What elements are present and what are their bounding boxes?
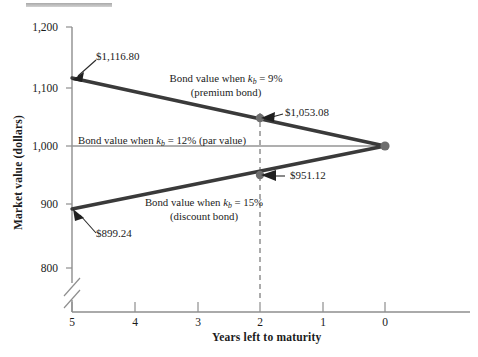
y-tick-label-1200: 1,200	[12, 21, 58, 34]
y-axis-title: Market value (dollars)	[12, 115, 25, 230]
annotation-1116-80: $1,116.80	[96, 50, 140, 62]
annotation-899-24: $899.24	[96, 227, 132, 239]
annotation-951-12: $951.12	[290, 169, 326, 181]
x-tick-label-1: 1	[313, 316, 333, 329]
x-tick-label-5: 5	[62, 316, 82, 329]
series-label-discount-line2: (discount bond)	[119, 210, 289, 222]
series-label-discount-prefix: Bond value when	[145, 196, 223, 208]
x-tick-label-3: 3	[188, 316, 208, 329]
bond-value-chart-figure: 1,200 1,100 1,000 900 800 5 4 3 2 1 0 Ye…	[0, 0, 478, 357]
arrow-head-899	[73, 209, 84, 221]
x-tick-label-4: 4	[125, 316, 145, 329]
series-label-premium-prefix: Bond value when	[170, 72, 248, 84]
x-tick-label-0: 0	[375, 316, 395, 329]
marker-maturity	[380, 141, 389, 150]
series-label-premium-suffix: = 9%	[257, 72, 283, 84]
y-tick-label-1100: 1,100	[12, 82, 58, 95]
y-tick-label-800: 800	[12, 262, 58, 275]
chart-plot-area	[0, 0, 478, 357]
series-label-premium-line2: (premium bond)	[160, 86, 292, 98]
series-label-par: Bond value when kb = 12% (par value)	[78, 134, 268, 148]
x-axis-title: Years left to maturity	[212, 331, 321, 344]
arrow-line-1116	[78, 60, 96, 76]
series-label-discount-suffix: = 15%	[232, 196, 263, 208]
series-label-discount: Bond value when kb = 15% (discount bond)	[119, 196, 289, 222]
series-label-par-prefix: Bond value when	[78, 134, 156, 146]
series-label-premium: Bond value when kb = 9% (premium bond)	[160, 72, 292, 98]
x-tick-label-2: 2	[250, 316, 270, 329]
series-label-par-suffix: = 12% (par value)	[165, 134, 246, 146]
annotation-1053-08: $1,053.08	[285, 106, 329, 118]
